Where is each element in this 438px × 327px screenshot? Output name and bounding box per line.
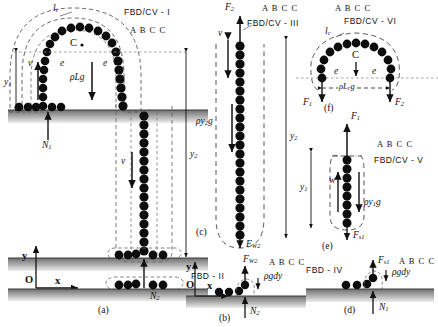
caption-d: (d) xyxy=(344,306,355,316)
ground-strip-a-lower xyxy=(8,258,208,271)
label-rho-g-dy-b: ρgdy xyxy=(264,272,282,282)
chain-heap-b xyxy=(215,281,249,296)
label-v-c: v xyxy=(218,29,222,39)
ground-strip-a xyxy=(8,110,208,123)
label-weight-a: ρLg xyxy=(70,73,85,83)
caption-e: (e) xyxy=(322,242,333,252)
label-axis-y-a: y xyxy=(22,251,27,262)
label-N1-a: N1 xyxy=(42,141,52,151)
label-axis-origin-b: O xyxy=(186,280,194,291)
leader-lc-a xyxy=(60,12,72,16)
label-F2-f: F2 xyxy=(395,98,404,108)
label-fbd-cv-1: FBD/CV - I xyxy=(124,8,170,17)
label-lc-a: lc xyxy=(53,4,59,14)
caption-f: (f) xyxy=(324,104,334,114)
label-weight-e: ρy1g xyxy=(364,198,381,208)
label-abcc-f: A B C C xyxy=(335,4,371,13)
label-fbd-cv-6: FBD/CV - VI xyxy=(344,17,396,26)
label-F1-e: F1 xyxy=(351,112,360,122)
caption-a: (a) xyxy=(98,306,109,316)
center-of-mass-dot-a xyxy=(80,43,83,46)
chain-heap-d xyxy=(342,274,378,290)
label-F1-f: F1 xyxy=(303,98,312,108)
label-v-right-a: v xyxy=(121,157,125,167)
panel-f-graphics xyxy=(296,33,438,102)
label-weight-f: ρLcg xyxy=(338,82,356,92)
label-y1-e: y1 xyxy=(300,183,307,193)
label-abcc-d: A B C C xyxy=(399,257,435,266)
label-F2-c: F2 xyxy=(225,3,234,13)
label-Fs1-d: Fs1 xyxy=(378,256,390,266)
label-e-right-f: e xyxy=(372,67,376,77)
label-v-left-a: v xyxy=(28,59,32,69)
label-axis-origin-a: O xyxy=(25,275,33,286)
label-axis-y-b: y xyxy=(186,262,191,273)
label-e-left-a: e xyxy=(60,59,64,69)
panel-a-graphics xyxy=(8,8,208,301)
chain-column-e xyxy=(343,156,352,228)
label-y1-a: y1 xyxy=(4,78,11,88)
label-lc-f: lc xyxy=(325,27,331,37)
label-axis-x-a: x xyxy=(55,276,60,287)
label-y2-c: y2 xyxy=(290,132,297,142)
caption-b: (b) xyxy=(219,314,230,324)
ground-strip-b xyxy=(186,296,306,308)
label-Fs1-e: Fs1 xyxy=(353,231,365,241)
label-center-f: C xyxy=(352,50,359,61)
label-fbd-cv-5: FBD/CV - V xyxy=(374,156,423,165)
label-Fw2-c: FW2 xyxy=(246,240,260,250)
label-N2-a: N2 xyxy=(150,292,160,302)
chain-column-c xyxy=(235,41,244,239)
label-w-e: w xyxy=(329,176,335,186)
panel-e-graphics xyxy=(311,124,364,240)
label-axis-x-b: x xyxy=(207,281,212,292)
chain-right-column-a xyxy=(112,48,149,256)
label-center-a: C xyxy=(70,38,77,49)
label-weight-c: ρy2g xyxy=(196,117,213,127)
label-e-left-f: e xyxy=(334,67,338,77)
label-fbd-4: FBD - IV xyxy=(306,266,343,275)
chain-left-column-a xyxy=(39,40,55,111)
label-fbd-cv-3: FBD/CV - III xyxy=(247,19,299,28)
chain-heap-base-a xyxy=(115,280,168,290)
label-e-right-a: e xyxy=(103,59,107,69)
label-rho-g-dy-d: ρgdy xyxy=(392,268,410,278)
ground-strip-a-base xyxy=(8,289,208,301)
chain-arc-a xyxy=(51,23,117,48)
ground-strip-d xyxy=(306,289,434,302)
label-Fw2-b: FW2 xyxy=(243,255,257,265)
label-abcc-c: A B C C xyxy=(262,4,298,13)
label-abcc-a: A B C C xyxy=(130,26,166,35)
label-N2-b: N2 xyxy=(250,307,260,317)
label-abcc-b: A B C C xyxy=(269,258,305,267)
panel-c-graphics xyxy=(216,16,286,248)
caption-c: (c) xyxy=(196,228,207,238)
label-abcc-e: A B C C xyxy=(377,140,413,149)
label-N1-d: N1 xyxy=(379,303,389,313)
leader-lc-f xyxy=(336,33,344,37)
label-y2-a: y2 xyxy=(190,150,197,160)
